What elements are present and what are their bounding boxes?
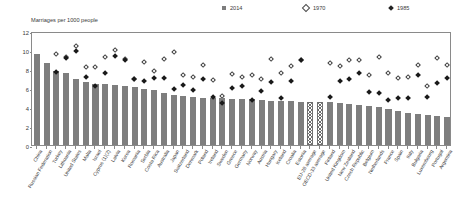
marker-1970: [161, 56, 167, 62]
bar-2014: [395, 111, 401, 145]
marker-1985: [346, 77, 352, 83]
marker-1970: [415, 62, 421, 68]
marker-1985: [180, 82, 186, 88]
chart-legend: 2014 1970 1985: [0, 2, 465, 14]
marker-1970: [346, 57, 352, 63]
marker-1970: [200, 62, 206, 68]
marker-1970: [327, 60, 333, 66]
bar-2014: [112, 85, 118, 145]
y-axis-tick-label: 2: [26, 125, 29, 131]
legend-item-1985: 1985: [389, 5, 409, 11]
marker-1970: [190, 74, 196, 80]
bar-2014: [239, 99, 245, 145]
bar-2014: [210, 98, 216, 145]
x-axis-labels: ChinaRussian FederationTurkeyLithuaniaUn…: [0, 149, 465, 199]
bar-2014: [444, 117, 450, 146]
filled-square-icon: [222, 6, 226, 10]
y-axis-tick-label: 6: [26, 87, 29, 93]
y-axis-tick-label: 12: [23, 30, 29, 36]
bar-2014: [307, 102, 313, 145]
marker-1970: [444, 62, 450, 68]
marker-1985: [425, 94, 431, 100]
marker-1985: [386, 97, 392, 103]
marker-1970: [151, 68, 157, 74]
marker-1985: [190, 87, 196, 93]
marker-1985: [102, 70, 108, 76]
marker-1985: [337, 78, 343, 84]
marker-1985: [112, 53, 118, 59]
marker-1985: [132, 77, 138, 83]
bar-2014: [288, 101, 294, 145]
marker-1985: [151, 75, 157, 81]
marker-1985: [434, 80, 440, 86]
x-axis-tick-label: Malta: [82, 149, 93, 162]
marker-1985: [229, 85, 235, 91]
bar-2014: [385, 109, 391, 145]
marker-1970: [337, 63, 343, 69]
legend-item-2014: 2014: [222, 5, 242, 11]
marker-1970: [93, 64, 99, 70]
y-axis-tick-label: 10: [23, 49, 29, 55]
legend-item-1970: 1970: [303, 5, 325, 11]
bar-2014: [102, 84, 108, 145]
bar-2014: [405, 113, 411, 145]
bar-2014: [141, 89, 147, 145]
marker-1985: [268, 79, 274, 85]
bar-2014: [53, 71, 59, 145]
bar-2014: [366, 106, 372, 145]
bar-2014: [259, 100, 265, 145]
marker-1985: [356, 70, 362, 76]
y-axis-tick-mark: [30, 109, 33, 110]
marker-1985: [259, 88, 265, 94]
marker-1970: [249, 72, 255, 78]
marker-1985: [415, 72, 421, 78]
bar-2014: [122, 86, 128, 145]
marker-1970: [288, 63, 294, 69]
marker-1970: [434, 55, 440, 61]
marker-1970: [210, 78, 216, 84]
y-axis-tick-label: 8: [26, 68, 29, 74]
bar-2014: [268, 101, 274, 145]
marker-1985: [288, 78, 294, 84]
bar-2014: [229, 99, 235, 145]
y-axis-tick-mark: [30, 33, 33, 34]
y-axis-tick-mark: [30, 71, 33, 72]
bar-2014: [190, 97, 196, 145]
marker-1970: [171, 49, 177, 55]
marker-1985: [171, 86, 177, 92]
bar-2014: [180, 96, 186, 145]
bar-2014: [34, 54, 40, 145]
marker-1970: [376, 54, 382, 60]
bar-2014: [151, 90, 157, 145]
marker-1985: [376, 90, 382, 96]
marker-1985: [298, 58, 304, 64]
marker-1970: [180, 72, 186, 78]
marker-1985: [239, 83, 245, 89]
marker-1970: [395, 75, 401, 81]
bar-2014: [73, 79, 79, 145]
legend-label-1970: 1970: [313, 5, 325, 11]
bar-2014: [278, 101, 284, 145]
bar-2014: [83, 82, 89, 145]
bar-2014: [327, 102, 333, 145]
marker-1970: [405, 74, 411, 80]
bar-2014: [171, 95, 177, 145]
bar-2014: [92, 84, 98, 145]
bar-2014: [44, 63, 50, 145]
y-axis-tick-label: 4: [26, 106, 29, 112]
marker-1985: [366, 89, 372, 95]
bar-2014: [376, 107, 382, 145]
bar-2014: [200, 98, 206, 146]
marker-1985: [200, 76, 206, 82]
bar-2014: [434, 116, 440, 145]
legend-label-2014: 2014: [230, 5, 242, 11]
marker-1970: [53, 51, 59, 57]
marker-1985: [444, 75, 450, 81]
y-axis-tick-mark: [30, 147, 33, 148]
marker-1970: [259, 77, 265, 83]
marker-1970: [356, 57, 362, 63]
marker-1970: [239, 74, 245, 80]
marker-1970: [278, 70, 284, 76]
marker-1985: [161, 75, 167, 81]
marker-1985: [73, 48, 79, 54]
